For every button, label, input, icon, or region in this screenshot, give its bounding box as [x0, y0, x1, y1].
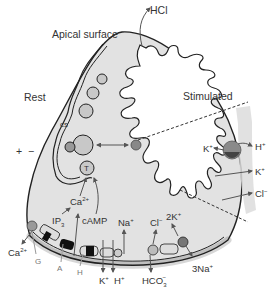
rest-label: Rest	[24, 91, 46, 103]
a-label: A	[57, 264, 63, 273]
inset-h-label: H+	[255, 141, 266, 152]
canalicular-pump	[131, 140, 141, 150]
hcl-label: HCl	[150, 4, 168, 16]
h-receptor-dark	[86, 246, 94, 256]
vesicle-pump	[65, 142, 75, 152]
inset-k-label: K+	[255, 166, 265, 177]
three-na-label: 3Na+	[192, 263, 213, 274]
hco3-label: HCO3−	[142, 274, 167, 288]
na-channel	[114, 249, 122, 257]
cs-label: cs	[60, 120, 68, 129]
ca-channel	[27, 221, 37, 231]
vesicle-large	[73, 135, 93, 155]
inset-cl-label: Cl−	[255, 188, 268, 199]
plus-sign: +	[16, 145, 22, 157]
kh-transporter	[100, 248, 114, 257]
parietal-cell-diagram: cs T sc HCl Apical surface Rest Stimulat…	[0, 0, 279, 298]
minus-sign: −	[28, 145, 34, 157]
t-label: T	[84, 164, 89, 173]
vesicle	[87, 87, 99, 99]
membrane-segment	[160, 244, 178, 254]
g-label: G	[35, 257, 41, 266]
cl-hco3-exchanger	[148, 245, 158, 255]
h-label: H	[77, 268, 83, 277]
vesicle	[79, 104, 93, 118]
k-out-label: K+	[99, 275, 109, 286]
ca-out-label: Ca2+	[8, 247, 27, 258]
h-out-label: H+	[114, 275, 125, 286]
na-k-atpase	[178, 237, 188, 247]
camp-label: cAMP	[82, 215, 107, 226]
apical-surface-label: Apical surface	[52, 28, 118, 40]
vesicle	[97, 74, 107, 84]
stimulated-label: Stimulated	[183, 90, 233, 102]
